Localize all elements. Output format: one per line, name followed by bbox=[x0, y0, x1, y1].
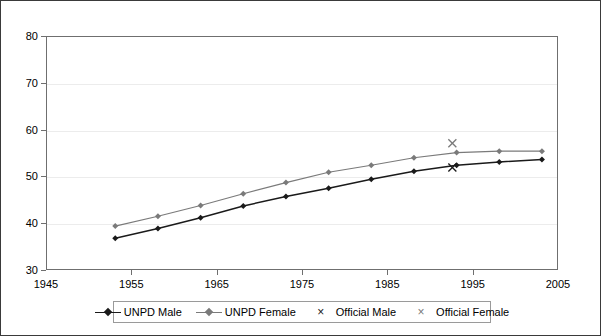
x-tick-label-1965: 1965 bbox=[187, 279, 247, 290]
legend-x-mark-icon: × bbox=[410, 307, 432, 318]
x-tick-label-1985: 1985 bbox=[357, 279, 417, 290]
x-tick-label-1995: 1995 bbox=[443, 279, 503, 290]
data-point-marker bbox=[326, 185, 332, 191]
data-point-marker bbox=[539, 148, 545, 154]
legend-diamond-icon bbox=[205, 307, 213, 315]
x-tick-label-2005: 2005 bbox=[528, 279, 588, 290]
x-tick-label-1975: 1975 bbox=[272, 279, 332, 290]
data-point-marker bbox=[448, 164, 456, 172]
data-point-marker bbox=[198, 215, 204, 221]
data-point-marker bbox=[112, 235, 118, 241]
y-tick-label-80: 80 bbox=[4, 31, 38, 42]
series-official-female bbox=[448, 139, 456, 147]
legend-label: UNPD Male bbox=[124, 307, 196, 318]
data-point-marker bbox=[496, 159, 502, 165]
data-point-marker bbox=[368, 162, 374, 168]
y-tick-mark-30 bbox=[41, 270, 46, 271]
y-tick-label-70: 70 bbox=[4, 78, 38, 89]
data-point-marker bbox=[283, 180, 289, 186]
data-point-marker bbox=[283, 194, 289, 200]
data-point-marker bbox=[448, 139, 456, 147]
chart-legend: UNPD MaleUNPD Female×Official Male×Offic… bbox=[113, 301, 491, 323]
data-point-marker bbox=[539, 157, 545, 163]
data-point-marker bbox=[240, 203, 246, 209]
x-tick-label-1955: 1955 bbox=[101, 279, 161, 290]
data-point-marker bbox=[411, 168, 417, 174]
legend-label: Official Female bbox=[436, 307, 509, 318]
data-point-marker bbox=[198, 202, 204, 208]
legend-diamond-icon bbox=[104, 307, 112, 315]
chart-frame: 304050607080 194519551965197519851995200… bbox=[0, 0, 601, 336]
y-tick-label-30: 30 bbox=[4, 265, 38, 276]
data-point-marker bbox=[326, 169, 332, 175]
data-point-marker bbox=[496, 148, 502, 154]
legend-label: UNPD Female bbox=[225, 307, 310, 318]
y-tick-label-50: 50 bbox=[4, 171, 38, 182]
legend-x-mark-icon: × bbox=[310, 307, 332, 318]
y-tick-label-60: 60 bbox=[4, 125, 38, 136]
data-point-marker bbox=[155, 213, 161, 219]
legend-line-diamond-icon bbox=[196, 312, 222, 313]
legend-item-official-male[interactable]: ×Official Male bbox=[310, 307, 410, 318]
legend-line-diamond-icon bbox=[95, 312, 121, 313]
y-tick-label-40: 40 bbox=[4, 218, 38, 229]
legend-item-unpd-male[interactable]: UNPD Male bbox=[95, 307, 196, 318]
data-point-marker bbox=[240, 191, 246, 197]
data-point-marker bbox=[155, 225, 161, 231]
data-point-marker bbox=[368, 176, 374, 182]
legend-item-official-female[interactable]: ×Official Female bbox=[410, 307, 509, 318]
legend-item-unpd-female[interactable]: UNPD Female bbox=[196, 307, 310, 318]
legend-label: Official Male bbox=[336, 307, 410, 318]
x-tick-label-1945: 1945 bbox=[16, 279, 76, 290]
data-point-marker bbox=[411, 155, 417, 161]
data-point-marker bbox=[454, 150, 460, 156]
series-layer bbox=[47, 37, 559, 271]
series-official-male bbox=[448, 164, 456, 172]
data-point-marker bbox=[112, 223, 118, 229]
plot-area bbox=[46, 36, 558, 270]
